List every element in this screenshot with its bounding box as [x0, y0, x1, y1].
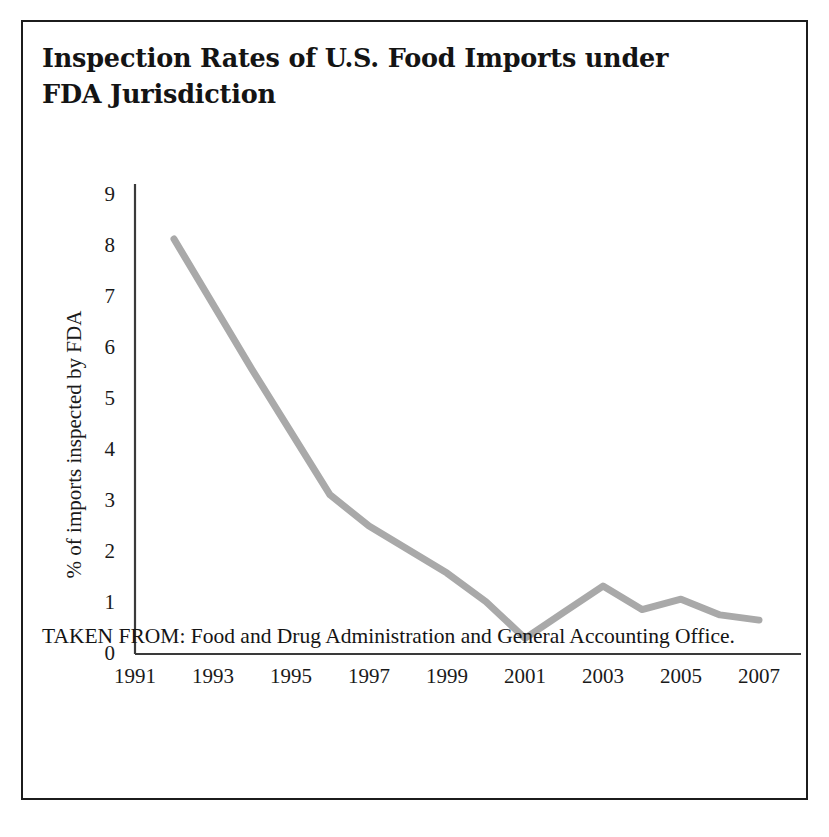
- plot-area: % of imports inspected by FDA 9 8 7 6 5 …: [23, 132, 806, 692]
- x-tick-2007: 2007: [719, 666, 799, 687]
- x-tick-1991: 1991: [95, 666, 175, 687]
- x-tick-2005: 2005: [641, 666, 721, 687]
- chart-canvas: [23, 132, 806, 692]
- source-caption: TAKEN FROM: Food and Drug Administration…: [42, 617, 742, 655]
- chart-title: Inspection Rates of U.S. Food Imports un…: [42, 40, 682, 112]
- y-tick-3: 3: [85, 490, 115, 511]
- y-tick-2: 2: [85, 541, 115, 562]
- x-tick-1999: 1999: [407, 666, 487, 687]
- x-tick-1997: 1997: [329, 666, 409, 687]
- x-tick-1995: 1995: [251, 666, 331, 687]
- y-tick-5: 5: [85, 388, 115, 409]
- y-axis-label: % of imports inspected by FDA: [62, 295, 87, 595]
- y-tick-7: 7: [85, 286, 115, 307]
- data-line-fda-inspection-rate: [174, 239, 759, 638]
- y-tick-6: 6: [85, 337, 115, 358]
- y-tick-9: 9: [85, 184, 115, 205]
- y-tick-8: 8: [85, 235, 115, 256]
- chart-figure: Inspection Rates of U.S. Food Imports un…: [21, 20, 808, 800]
- x-tick-1993: 1993: [173, 666, 253, 687]
- y-tick-1: 1: [85, 592, 115, 613]
- x-tick-2001: 2001: [485, 666, 565, 687]
- x-tick-2003: 2003: [563, 666, 643, 687]
- y-tick-4: 4: [85, 439, 115, 460]
